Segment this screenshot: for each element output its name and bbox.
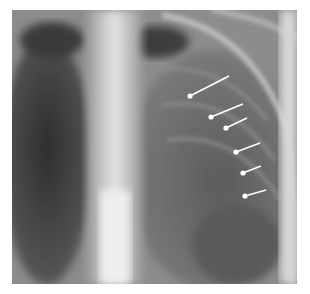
chest-xray-image [12,10,297,284]
xray-rendering [12,10,297,284]
